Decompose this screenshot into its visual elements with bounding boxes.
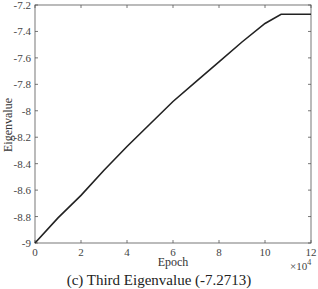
x-tick-label: 8 bbox=[216, 246, 222, 258]
y-tick-label: -9 bbox=[22, 237, 32, 249]
y-tick-label: -7.8 bbox=[14, 78, 32, 90]
y-tick-label: -8.6 bbox=[14, 184, 32, 196]
x-axis-multiplier: ×104 bbox=[290, 258, 311, 272]
y-tick-label: -8.2 bbox=[14, 131, 31, 143]
x-tick-label: 10 bbox=[260, 246, 272, 258]
y-tick-label: -7.2 bbox=[14, 0, 31, 11]
x-tick-label: 4 bbox=[124, 246, 130, 258]
figure-caption: (c) Third Eigenvalue (-7.2713) bbox=[0, 272, 318, 289]
y-tick-label: -8.8 bbox=[14, 211, 32, 223]
x-tick-label: 12 bbox=[306, 246, 317, 258]
y-tick-label: -7.4 bbox=[14, 25, 32, 37]
plot-area: 024681012-9-8.8-8.6-8.4-8.2-8-7.8-7.6-7.… bbox=[14, 0, 317, 258]
y-tick-label: -8 bbox=[22, 105, 32, 117]
y-tick-label: -8.4 bbox=[14, 158, 32, 170]
axes-box bbox=[35, 5, 311, 243]
x-tick-label: 2 bbox=[78, 246, 84, 258]
y-tick-label: -7.6 bbox=[14, 52, 32, 64]
y-axis-label: Eigenvalue bbox=[1, 98, 15, 152]
x-tick-label: 0 bbox=[32, 246, 38, 258]
series-line bbox=[35, 14, 311, 243]
x-axis-label: Epoch bbox=[158, 255, 189, 269]
